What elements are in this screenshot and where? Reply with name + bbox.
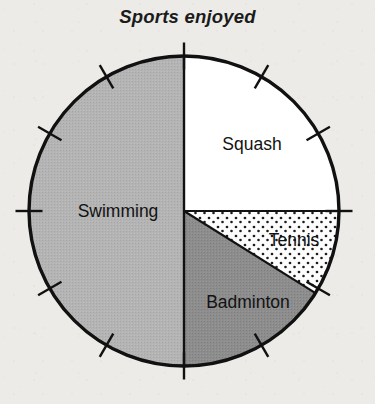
pie-label-tennis: Tennis bbox=[269, 230, 320, 250]
pie-label-squash: Squash bbox=[222, 134, 281, 154]
pie-label-swimming: Swimming bbox=[78, 201, 159, 221]
chart-page: Sports enjoyed bbox=[0, 0, 375, 404]
pie-label-badminton: Badminton bbox=[206, 292, 290, 312]
pie-chart: Squash Tennis Badminton Swimming bbox=[0, 0, 375, 404]
